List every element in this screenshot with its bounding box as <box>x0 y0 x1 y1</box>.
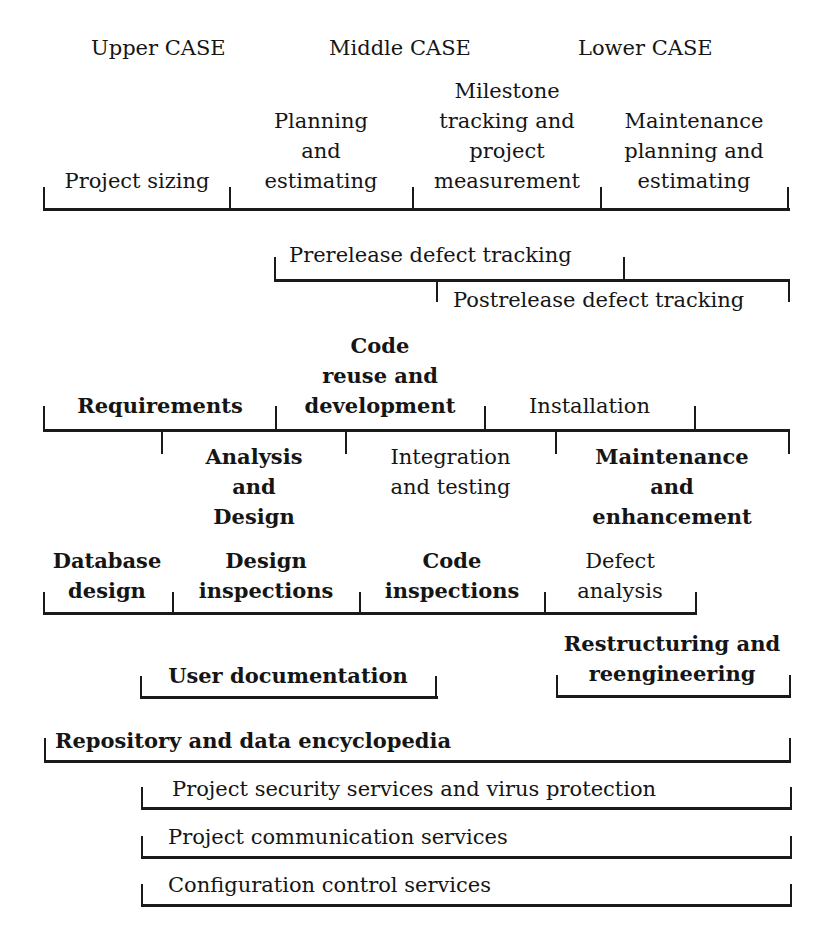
header-upper-case: Upper CASE <box>91 34 226 62</box>
management-baseline <box>43 208 790 211</box>
tick <box>43 187 45 210</box>
tick <box>484 406 486 430</box>
maintenance-planning-label: Maintenance planning and estimating <box>602 106 786 196</box>
user-documentation-label: User documentation <box>143 661 433 691</box>
design-inspections-label: Design inspections <box>175 546 357 606</box>
tick <box>790 836 792 858</box>
user-documentation-line <box>140 696 438 699</box>
tick <box>435 676 437 698</box>
maintenance-enhancement-label: Maintenance and enhancement <box>558 442 786 532</box>
tick <box>694 406 696 430</box>
tick <box>788 430 790 454</box>
tick <box>790 787 792 809</box>
defect-analysis-label: Defect analysis <box>547 546 693 606</box>
defect-tracking-line <box>274 279 790 282</box>
postrelease-tick-left <box>436 280 438 302</box>
milestone-tracking-label: Milestone tracking and project measureme… <box>414 76 600 196</box>
tick <box>790 884 792 906</box>
tick <box>555 430 557 454</box>
configuration-control-label: Configuration control services <box>168 870 491 900</box>
code-reuse-label: Code reuse and development <box>278 331 482 421</box>
tick <box>161 430 163 454</box>
tick <box>789 738 791 762</box>
project-sizing-label: Project sizing <box>46 166 228 196</box>
integration-testing-label: Integration and testing <box>347 442 554 502</box>
tick <box>44 738 46 762</box>
quality-line <box>43 612 697 615</box>
header-middle-case: Middle CASE <box>329 34 471 62</box>
lifecycle-line <box>43 429 790 432</box>
restructuring-line <box>556 695 791 698</box>
security-line <box>141 807 792 810</box>
communication-services-label: Project communication services <box>168 822 508 852</box>
security-services-label: Project security services and virus prot… <box>172 774 656 804</box>
postrelease-tick-right <box>788 280 790 302</box>
repository-label: Repository and data encyclopedia <box>55 726 451 756</box>
database-design-label: Database design <box>40 546 174 606</box>
tick <box>141 884 143 906</box>
tick <box>695 592 697 614</box>
tick <box>229 187 231 210</box>
restructuring-reengineering-label: Restructuring and reengineering <box>542 629 802 689</box>
code-inspections-label: Code inspections <box>362 546 542 606</box>
tick <box>359 592 361 614</box>
analysis-design-label: Analysis and Design <box>164 442 344 532</box>
tick <box>43 406 45 430</box>
tick <box>787 187 789 210</box>
prerelease-defect-tracking-label: Prerelease defect tracking <box>289 240 572 270</box>
requirements-label: Requirements <box>46 391 274 421</box>
postrelease-defect-tracking-label: Postrelease defect tracking <box>453 285 744 315</box>
prerelease-tick-left <box>274 257 276 281</box>
installation-label: Installation <box>487 391 692 421</box>
tick <box>544 592 546 614</box>
tick <box>141 836 143 858</box>
tick <box>140 676 142 698</box>
configuration-line <box>141 904 792 907</box>
tick <box>275 406 277 430</box>
repository-line <box>44 760 791 763</box>
tick <box>141 787 143 809</box>
planning-estimating-label: Planning and estimating <box>232 106 410 196</box>
communication-line <box>141 856 792 859</box>
prerelease-tick-right <box>623 257 625 281</box>
header-lower-case: Lower CASE <box>578 34 713 62</box>
